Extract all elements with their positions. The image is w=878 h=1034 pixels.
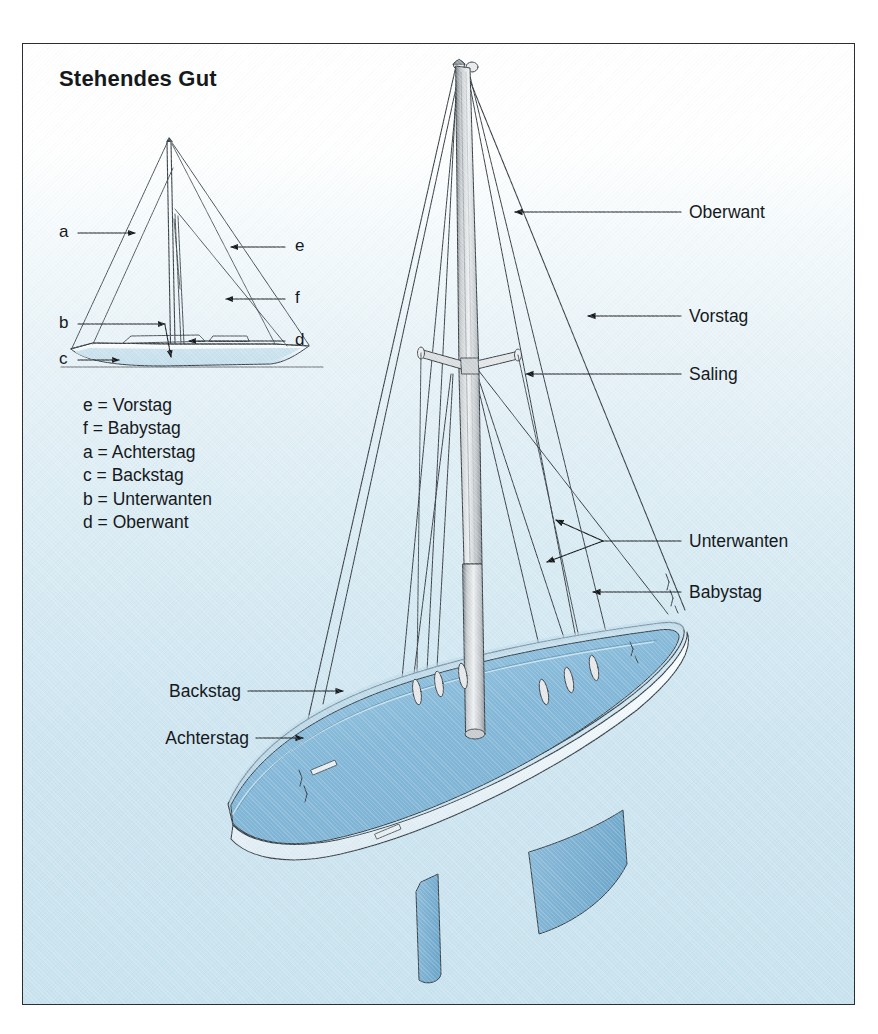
main-boat-perspective-view [228, 59, 688, 983]
mini-callout-e: e [295, 236, 304, 256]
legend-item-backstag: c = Backstag [83, 464, 212, 487]
legend-item-babystag: f = Babystag [83, 417, 212, 440]
mini-callout-b: b [59, 313, 68, 333]
label-achterstag: Achterstag [131, 728, 249, 749]
legend-item-vorstag: e = Vorstag [83, 394, 212, 417]
figure-frame: Stehendes Gut a b c e f d e = Vorstag f … [22, 43, 855, 1005]
legend-item-oberwant: d = Oberwant [83, 511, 212, 534]
mini-boat-side-view [61, 137, 323, 367]
label-babystag: Babystag [689, 582, 762, 603]
figure-title: Stehendes Gut [59, 66, 217, 92]
mini-callout-f: f [295, 288, 300, 308]
mini-callout-c: c [59, 349, 68, 369]
legend-list: e = Vorstag f = Babystag a = Achterstag … [83, 394, 212, 534]
legend-item-achterstag: a = Achterstag [83, 441, 212, 464]
forestay-chain [666, 574, 678, 613]
figure-page: Stehendes Gut a b c e f d e = Vorstag f … [0, 0, 878, 1034]
mini-callout-a: a [59, 222, 68, 242]
label-vorstag: Vorstag [689, 306, 748, 327]
mini-callout-d: d [295, 330, 304, 350]
label-oberwant: Oberwant [689, 202, 765, 223]
label-saling: Saling [689, 364, 738, 385]
label-unterwanten: Unterwanten [689, 531, 788, 552]
label-backstag: Backstag [131, 681, 241, 702]
legend-item-unterwanten: b = Unterwanten [83, 488, 212, 511]
